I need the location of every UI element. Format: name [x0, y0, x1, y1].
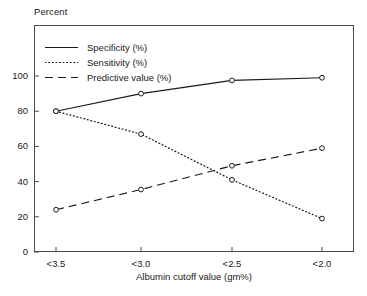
figure: Percent 020406080100 <3.5<3.0<2.5<2.0 Al… [0, 0, 367, 296]
legend-line-icon [45, 57, 78, 68]
y-axis-title: Percent [34, 6, 67, 17]
legend-label: Predictive value (%) [87, 72, 171, 83]
legend-item: Sensitivity (%) [45, 55, 225, 70]
x-tick-label: <3.5 [36, 259, 76, 269]
y-tick-label: 100 [2, 71, 28, 81]
y-tick-label: 60 [2, 141, 28, 151]
x-tick-label: <3.0 [121, 259, 161, 269]
legend-item: Specificity (%) [45, 40, 225, 55]
legend-line-icon [45, 42, 78, 53]
y-tick-label: 80 [2, 106, 28, 116]
x-axis-title: Albumin cutoff value (gm%) [34, 271, 354, 282]
y-tick-label: 0 [2, 247, 28, 257]
y-tick-label: 40 [2, 177, 28, 187]
x-tick-label: <2.5 [212, 259, 252, 269]
chart-legend: Specificity (%)Sensitivity (%)Predictive… [45, 40, 225, 85]
legend-label: Specificity (%) [87, 42, 147, 53]
legend-line-icon [45, 72, 78, 83]
y-tick-label: 20 [2, 212, 28, 222]
legend-label: Sensitivity (%) [87, 57, 147, 68]
figure-caption [27, 287, 327, 296]
legend-item: Predictive value (%) [45, 70, 225, 85]
x-tick-label: <2.0 [302, 259, 342, 269]
